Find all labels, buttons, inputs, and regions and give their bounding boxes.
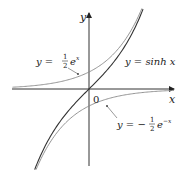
sinh-graph: y x 0 y = 1 2 e x y = sinh x y = − 1 2 e… — [0, 0, 190, 179]
label-half-exp: y = 1 2 e x — [35, 53, 80, 70]
origin-label: 0 — [93, 94, 99, 105]
svg-text:−x: −x — [163, 117, 172, 124]
pointer-dot-neg-half-exp-neg — [106, 105, 108, 107]
x-axis-label: x — [169, 93, 176, 106]
pointer-dot-half-exp — [77, 73, 79, 75]
pointer-neg-half-exp-neg — [107, 106, 117, 118]
svg-text:2: 2 — [63, 62, 67, 70]
svg-text:1: 1 — [150, 116, 154, 124]
svg-text:x: x — [76, 54, 80, 61]
svg-text:1: 1 — [63, 53, 67, 61]
svg-text:y =: y = — [35, 56, 53, 67]
svg-text:y = −: y = − — [116, 119, 146, 130]
y-axis-label: y — [79, 11, 87, 24]
curve-half-exp — [13, 8, 142, 87]
svg-text:2: 2 — [150, 125, 154, 133]
label-neg-half-exp-neg: y = − 1 2 e −x — [116, 116, 172, 133]
pointer-half-exp — [68, 68, 78, 74]
label-sinh: y = sinh x — [124, 56, 176, 67]
